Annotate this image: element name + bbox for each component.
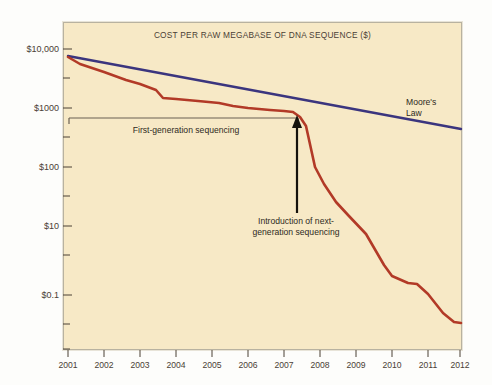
x-tick-label-2010: 2010 bbox=[382, 360, 401, 370]
x-tick-label-2008: 2008 bbox=[310, 360, 329, 370]
first-generation-label: First-generation sequencing bbox=[133, 125, 240, 135]
next-generation-label-line1: Introduction of next- bbox=[253, 216, 340, 227]
x-axis-ticks bbox=[68, 350, 460, 357]
x-tick-label-2012: 2012 bbox=[450, 360, 469, 370]
y-axis-ticks bbox=[63, 49, 72, 349]
first-generation-bracket bbox=[69, 118, 298, 124]
chart-container: COST PER RAW MEGABASE OF DNA SEQUENCE ($… bbox=[0, 0, 492, 385]
y-tick-label-10000: $10,000 bbox=[4, 44, 59, 54]
x-tick-label-2007: 2007 bbox=[274, 360, 293, 370]
next-generation-arrow bbox=[292, 115, 302, 213]
x-tick-label-2002: 2002 bbox=[94, 360, 113, 370]
x-tick-label-2001: 2001 bbox=[58, 360, 77, 370]
moores-law-label-line1: Moore's bbox=[406, 97, 436, 108]
y-tick-label-10: $10 bbox=[4, 221, 59, 231]
x-tick-label-2009: 2009 bbox=[346, 360, 365, 370]
y-tick-label-0.1: $0.1 bbox=[4, 290, 59, 300]
x-tick-label-2003: 2003 bbox=[130, 360, 149, 370]
moores-law-label: Moore's Law bbox=[406, 97, 436, 119]
x-tick-label-2005: 2005 bbox=[202, 360, 221, 370]
cost-per-megabase-curve bbox=[68, 57, 461, 323]
next-generation-label-line2: generation sequencing bbox=[253, 227, 340, 238]
moores-law-label-line2: Law bbox=[406, 108, 436, 119]
next-generation-label: Introduction of next- generation sequenc… bbox=[253, 216, 340, 238]
y-tick-label-1000: $1000 bbox=[4, 103, 59, 113]
x-tick-label-2011: 2011 bbox=[419, 360, 437, 370]
chart-vector-layer bbox=[0, 0, 492, 385]
x-tick-label-2004: 2004 bbox=[166, 360, 185, 370]
y-tick-label-100: $100 bbox=[4, 162, 59, 172]
x-tick-label-2006: 2006 bbox=[238, 360, 257, 370]
